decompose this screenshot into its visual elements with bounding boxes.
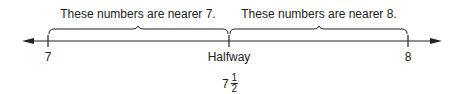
label-7: 7 (45, 50, 52, 64)
fraction-denominator: 2 (232, 84, 238, 94)
right-arrow-icon (430, 38, 442, 44)
brace-label-nearer-7: These numbers are nearer 7. (60, 7, 215, 21)
fraction: 1 2 (231, 73, 239, 94)
left-arrow-icon (22, 38, 34, 44)
label-halfway: Halfway (208, 50, 251, 64)
brace-label-nearer-8: These numbers are nearer 8. (241, 7, 396, 21)
mixed-number-whole: 7 (222, 77, 229, 91)
brace-nearer-7 (49, 26, 228, 34)
label-8: 8 (405, 50, 412, 64)
brace-nearer-8 (230, 26, 407, 34)
mixed-number-seven-and-a-half: 7 1 2 (222, 73, 238, 94)
